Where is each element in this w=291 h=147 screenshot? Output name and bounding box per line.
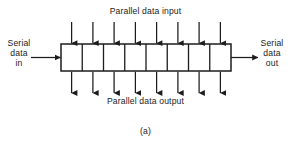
parallel-data-output-label: Parallel data output [0, 96, 291, 106]
serial-data-out-line-3: out [254, 58, 290, 68]
serial-data-in-line-2: data [1, 48, 37, 58]
parallel-output-arrows [72, 72, 221, 93]
register-box-group [61, 44, 231, 71]
serial-data-in-line-3: in [1, 58, 37, 68]
serial-data-in-label: Serial data in [1, 38, 37, 69]
parallel-input-arrows [72, 22, 221, 43]
figure-caption: (a) [0, 126, 291, 136]
shift-register-figure: Parallel data input Parallel data output… [0, 0, 291, 147]
shift-register-diagram [0, 0, 291, 147]
serial-data-in-line-1: Serial [1, 38, 37, 48]
parallel-data-input-label: Parallel data input [0, 6, 291, 16]
serial-data-out-label: Serial data out [254, 38, 290, 69]
serial-data-out-line-2: data [254, 48, 290, 58]
serial-data-out-line-1: Serial [254, 38, 290, 48]
